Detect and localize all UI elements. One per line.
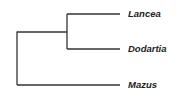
taxon-label-lancea: Lancea (128, 9, 161, 19)
phylogenetic-tree: Lancea Dodartia Mazus (0, 0, 179, 92)
taxon-label-mazus: Mazus (128, 80, 157, 90)
taxon-label-dodartia: Dodartia (128, 44, 167, 54)
